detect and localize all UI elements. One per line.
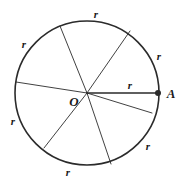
r-label-bottom: r [66, 167, 70, 178]
radius-left [16, 82, 87, 93]
r-label-center-right: r [128, 80, 132, 91]
radius-down-right [87, 93, 152, 113]
radius-down-left [44, 93, 87, 148]
r-label-bottom-right: r [146, 141, 150, 152]
center-label-o: O [69, 95, 78, 108]
r-label-top: r [94, 9, 98, 20]
circle-diagram-svg [0, 0, 185, 183]
point-label-a: A [167, 87, 176, 100]
r-label-left-lower: r [11, 116, 15, 127]
radius-up-right [87, 31, 130, 93]
radius-down-mid [87, 93, 111, 164]
r-label-top-right: r [157, 51, 161, 62]
radii-group [16, 26, 158, 164]
point-a-dot [155, 90, 161, 96]
geometry-figure-canvas: O A rrrrrrr [0, 0, 185, 183]
r-label-top-left: r [22, 39, 26, 50]
radius-up-left [60, 26, 87, 93]
